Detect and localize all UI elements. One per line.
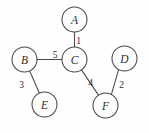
edge-d-f <box>111 69 119 95</box>
edge-b-e <box>30 71 39 93</box>
node-a: A <box>62 7 87 32</box>
node-b: B <box>12 47 37 72</box>
edge-weight-c-f: 4 <box>88 78 93 88</box>
edge-weight-d-f: 2 <box>119 80 124 90</box>
node-c-label: C <box>71 54 79 66</box>
graph-canvas: A B C D E F 1 5 <box>0 0 149 133</box>
edge-weight-b-c: 5 <box>53 50 58 60</box>
node-c: C <box>62 47 87 72</box>
node-e: E <box>32 92 57 117</box>
node-f-label: F <box>101 100 110 112</box>
node-d: D <box>112 46 137 71</box>
edge-weight-a-c: 1 <box>76 36 81 46</box>
weighted-graph-figure: A B C D E F 1 5 <box>0 0 149 133</box>
node-f: F <box>93 93 118 118</box>
node-e-label: E <box>40 99 48 111</box>
node-b-label: B <box>21 54 28 66</box>
node-group: A B C D E F <box>12 7 137 118</box>
node-d-label: D <box>119 53 129 65</box>
node-a-label: A <box>70 14 79 26</box>
edge-weight-b-e: 3 <box>19 80 24 90</box>
